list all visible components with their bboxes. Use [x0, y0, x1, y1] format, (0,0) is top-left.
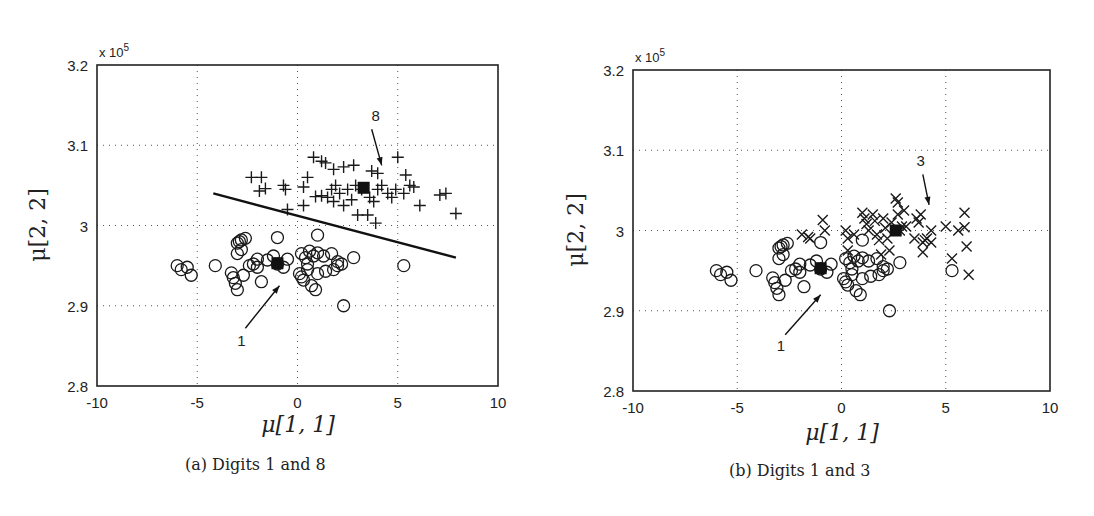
plus-marker — [298, 199, 310, 211]
x-axis-label: μ[1, 1] — [805, 420, 879, 445]
circle-marker — [209, 260, 221, 272]
circle-marker — [815, 237, 827, 249]
cluster-annotation-label: 3 — [917, 152, 925, 169]
circle-marker — [312, 229, 324, 241]
plus-marker — [310, 191, 322, 203]
x-tick-label: -5 — [191, 394, 204, 411]
plus-marker — [370, 217, 382, 229]
x-tick-label: 5 — [394, 394, 402, 411]
annotation-arrow — [245, 286, 279, 329]
series-filled-square — [271, 182, 369, 269]
cross-marker — [893, 197, 903, 207]
plus-marker — [440, 187, 452, 199]
plus-marker — [255, 171, 267, 183]
circle-marker — [312, 268, 324, 280]
cross-marker — [914, 217, 924, 227]
cross-marker — [843, 234, 853, 244]
plus-marker — [366, 165, 378, 177]
plus-marker — [316, 190, 328, 202]
plus-marker — [450, 207, 462, 219]
x-tick-label: 10 — [490, 394, 507, 411]
y-tick-label: 3.2 — [67, 57, 88, 74]
caption-b: (b) Digits 1 and 3 — [729, 461, 870, 480]
cross-marker — [960, 208, 970, 218]
y-tick-label: 2.9 — [603, 303, 624, 320]
arrowhead-icon — [377, 157, 383, 166]
annotation-arrow — [785, 295, 820, 335]
circle-marker — [255, 276, 267, 288]
cross-marker — [916, 209, 926, 219]
x-tick-label: -10 — [622, 399, 644, 416]
x-tick-label: -10 — [86, 394, 108, 411]
cluster-annotation-label: 1 — [237, 332, 245, 349]
circle-marker — [894, 257, 906, 269]
y-exponent-label: x 105 — [635, 47, 666, 65]
circle-marker — [398, 260, 410, 272]
cross-marker — [820, 226, 830, 236]
circle-marker — [231, 284, 243, 296]
caption-a: (a) Digits 1 and 8 — [185, 455, 326, 474]
cross-marker — [918, 247, 928, 257]
class-mean-marker — [890, 225, 902, 237]
circle-marker — [794, 266, 806, 278]
x-tick-label: 0 — [293, 394, 301, 411]
cross-marker — [899, 205, 909, 215]
cluster-annotation-label: 8 — [372, 107, 380, 124]
plus-marker — [348, 159, 360, 171]
panel-b: -10-505102.82.933.13.2x 105μ[1, 1]μ[2, 2… — [547, 0, 1094, 516]
y-tick-label: 3.2 — [603, 62, 624, 79]
plus-marker — [253, 185, 265, 197]
class-mean-marker — [271, 257, 283, 269]
panel-a: -10-505102.82.933.13.2x 105μ[1, 1]μ[2, 2… — [0, 0, 547, 516]
series-plus — [245, 151, 462, 229]
series-circle — [171, 229, 410, 312]
plus-marker — [346, 194, 358, 206]
y-tick-label: 3.1 — [67, 137, 88, 154]
circle-marker — [320, 265, 332, 277]
x-axis-label: μ[1, 1] — [261, 412, 335, 437]
x-tick-label: 10 — [1042, 399, 1059, 416]
circle-marker — [946, 265, 958, 277]
cross-marker — [893, 209, 903, 219]
y-axis-label: μ[2, 2] — [25, 188, 50, 261]
plus-marker — [434, 189, 446, 201]
x-tick-label: 5 — [942, 399, 950, 416]
plus-marker — [352, 209, 364, 221]
plus-marker — [400, 169, 412, 181]
cluster-annotation-label: 1 — [777, 337, 785, 354]
circle-marker — [865, 270, 877, 282]
circle-marker — [856, 273, 868, 285]
y-axis-label: μ[2, 2] — [563, 193, 588, 266]
circle-marker — [856, 234, 868, 246]
cross-marker — [964, 270, 974, 280]
cross-marker — [962, 242, 972, 252]
scatter-plot-b: -10-505102.82.933.13.2x 105μ[1, 1]μ[2, 2… — [547, 0, 1094, 516]
x-tick-label: 0 — [837, 399, 845, 416]
y-tick-label: 3.1 — [603, 142, 624, 159]
cross-marker — [818, 215, 828, 225]
y-exponent-label: x 105 — [99, 42, 130, 60]
y-tick-label: 3 — [616, 223, 624, 240]
y-tick-label: 2.9 — [67, 298, 88, 315]
plus-marker — [338, 161, 350, 173]
y-tick-label: 2.8 — [603, 383, 624, 400]
circle-marker — [271, 232, 283, 244]
cross-marker — [941, 221, 951, 231]
plus-marker — [392, 151, 404, 163]
plus-marker — [259, 183, 271, 195]
plus-marker — [372, 167, 384, 179]
plus-marker — [328, 163, 340, 175]
class-mean-marker — [358, 182, 370, 194]
series-circle — [710, 234, 958, 317]
y-tick-label: 3 — [80, 218, 88, 235]
circle-marker — [348, 252, 360, 264]
plus-marker — [414, 199, 426, 211]
circle-marker — [773, 289, 785, 301]
scatter-plot-a: -10-505102.82.933.13.2x 105μ[1, 1]μ[2, 2… — [0, 0, 547, 516]
y-tick-label: 2.8 — [67, 378, 88, 395]
class-mean-marker — [815, 262, 827, 274]
circle-marker — [750, 265, 762, 277]
circle-marker — [798, 281, 810, 293]
cross-marker — [947, 254, 957, 264]
x-tick-label: -5 — [731, 399, 744, 416]
